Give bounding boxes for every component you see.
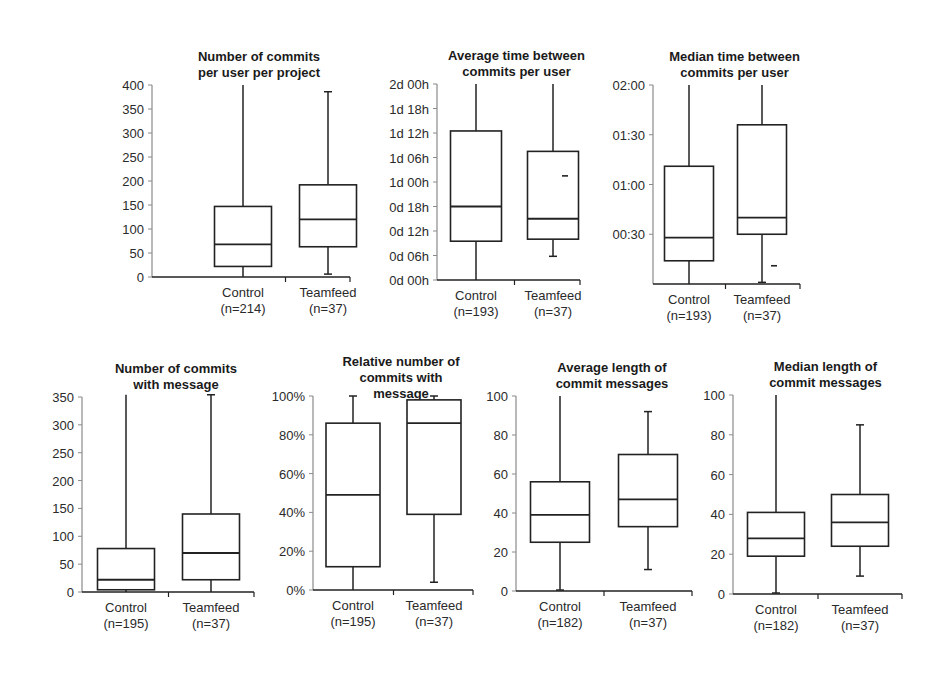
box-teamfeed: Teamfeed(n=37) <box>299 92 356 316</box>
y-tick-label: 0d 06h <box>389 249 429 264</box>
sample-size-label: (n=37) <box>534 304 572 319</box>
iqr-box <box>748 512 805 556</box>
y-tick-label: 1d 00h <box>389 175 429 190</box>
box-teamfeed: Teamfeed(n=37) <box>182 395 239 631</box>
chart-2: Average time betweencommits per user0d 0… <box>389 48 585 319</box>
sample-size-label: (n=37) <box>309 301 347 316</box>
y-tick-label: 60 <box>494 467 508 482</box>
category-label: Control <box>105 600 147 615</box>
iqr-box <box>531 482 590 542</box>
box-plot-figure: Number of commitsper user per project050… <box>0 0 941 674</box>
y-tick-label: 150 <box>52 501 74 516</box>
box-teamfeed: Teamfeed(n=37) <box>524 84 581 319</box>
sample-size-label: (n=37) <box>192 616 230 631</box>
y-tick-label: 1d 06h <box>389 151 429 166</box>
chart-title: Average time betweencommits per user <box>448 48 585 79</box>
y-tick-label: 350 <box>52 390 74 405</box>
sample-size-label: (n=37) <box>415 614 453 629</box>
y-tick-label: 02:00 <box>612 78 645 93</box>
y-tick-label: 80% <box>279 428 305 443</box>
category-label: Teamfeed <box>831 602 888 617</box>
y-tick-label: 1d 12h <box>389 126 429 141</box>
chart-title-line: commits per user <box>462 64 570 79</box>
chart-title: Median time betweencommits per user <box>669 49 800 80</box>
chart-title-line: commits with <box>359 370 442 385</box>
iqr-box <box>528 151 579 239</box>
chart-3: Median time betweencommits per user00:30… <box>612 49 800 323</box>
y-tick-label: 1d 18h <box>389 102 429 117</box>
category-label: Teamfeed <box>619 599 676 614</box>
chart-title-line: Median length of <box>774 359 878 374</box>
box-teamfeed: Teamfeed(n=37) <box>405 396 462 629</box>
box-teamfeed: Teamfeed(n=37) <box>733 85 790 323</box>
y-tick-label: 20 <box>494 545 508 560</box>
y-tick-label: 20 <box>711 547 725 562</box>
box-control: Control(n=195) <box>326 396 380 629</box>
y-tick-label: 250 <box>52 446 74 461</box>
y-tick-label: 40 <box>494 506 508 521</box>
chart-title-line: Relative number of <box>342 354 460 369</box>
sample-size-label: (n=195) <box>103 616 148 631</box>
sample-size-label: (n=182) <box>753 618 798 633</box>
iqr-box <box>407 400 461 514</box>
chart-title: Number of commitswith message <box>115 361 237 392</box>
y-tick-label: 01:30 <box>612 128 645 143</box>
y-tick-label: 2d 00h <box>389 77 429 92</box>
chart-title-line: Number of commits <box>115 361 237 376</box>
y-tick-label: 40% <box>279 505 305 520</box>
y-tick-label: 100 <box>486 389 508 404</box>
charts-canvas: Number of commitsper user per project050… <box>0 0 941 674</box>
category-label: Control <box>455 288 497 303</box>
y-tick-label: 100 <box>122 222 144 237</box>
iqr-box <box>98 549 155 590</box>
y-tick-label: 100% <box>272 389 306 404</box>
y-tick-label: 400 <box>122 78 144 93</box>
box-control: Control(n=195) <box>98 395 155 631</box>
chart-4: Number of commitswith message05010015020… <box>52 361 254 631</box>
y-tick-label: 0d 12h <box>389 224 429 239</box>
y-tick-label: 200 <box>52 474 74 489</box>
iqr-box <box>451 131 502 241</box>
category-label: Control <box>539 599 581 614</box>
chart-title: Average length ofcommit messages <box>556 360 669 391</box>
iqr-box <box>665 166 714 261</box>
y-tick-label: 50 <box>60 557 74 572</box>
category-label: Teamfeed <box>524 288 581 303</box>
y-tick-label: 0 <box>67 585 74 600</box>
box-teamfeed: Teamfeed(n=37) <box>831 425 888 633</box>
category-label: Control <box>668 292 710 307</box>
y-tick-label: 0 <box>501 584 508 599</box>
chart-title: Median length ofcommit messages <box>769 359 882 390</box>
chart-title-line: with message <box>132 377 218 392</box>
chart-title-line: Average time between <box>448 48 585 63</box>
chart-title-line: Median time between <box>669 49 800 64</box>
sample-size-label: (n=37) <box>743 308 781 323</box>
iqr-box <box>300 185 357 247</box>
y-tick-label: 200 <box>122 174 144 189</box>
y-tick-label: 80 <box>494 428 508 443</box>
y-tick-label: 40 <box>711 507 725 522</box>
chart-title: Relative number ofcommits withmessage <box>342 354 460 401</box>
chart-title-line: per user per project <box>198 65 321 80</box>
category-label: Control <box>332 598 374 613</box>
y-tick-label: 350 <box>122 102 144 117</box>
chart-title: Number of commitsper user per project <box>198 49 321 80</box>
category-label: Teamfeed <box>733 292 790 307</box>
category-label: Control <box>222 285 264 300</box>
chart-title-line: Number of commits <box>198 49 320 64</box>
iqr-box <box>832 495 889 547</box>
y-tick-label: 300 <box>52 418 74 433</box>
category-label: Teamfeed <box>299 285 356 300</box>
y-tick-label: 0d 18h <box>389 200 429 215</box>
chart-title-line: commit messages <box>556 376 669 391</box>
box-control: Control(n=182) <box>748 395 805 633</box>
category-label: Teamfeed <box>182 600 239 615</box>
iqr-box <box>619 455 678 527</box>
y-tick-label: 50 <box>130 246 144 261</box>
sample-size-label: (n=214) <box>220 301 265 316</box>
chart-title-line: message <box>373 386 429 401</box>
y-tick-label: 60% <box>279 467 305 482</box>
y-tick-label: 0% <box>286 583 305 598</box>
y-tick-label: 00:30 <box>612 227 645 242</box>
y-tick-label: 250 <box>122 150 144 165</box>
